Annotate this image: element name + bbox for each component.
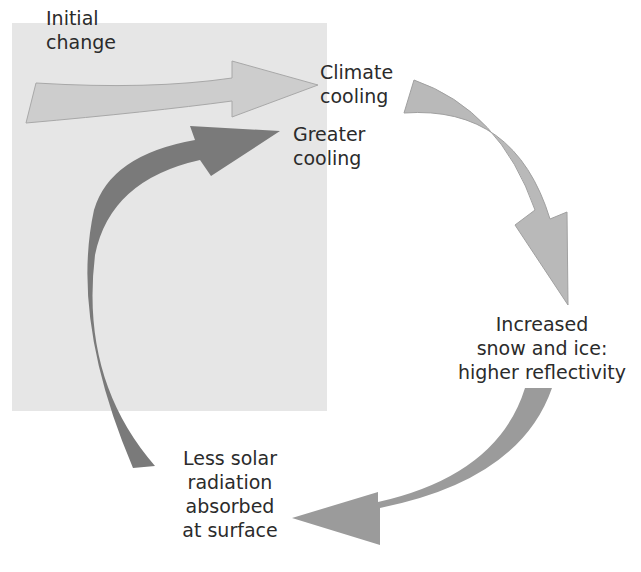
label-initial-change: Initial change	[46, 6, 116, 54]
label-greater-cooling: Greater cooling	[293, 122, 365, 170]
label-less-solar-radiation: Less solar radiation absorbed at surface	[170, 446, 290, 542]
label-climate-cooling: Climate cooling	[320, 60, 393, 108]
label-increased-snow-ice: Increased snow and ice: higher reflectiv…	[432, 312, 641, 384]
feedback-diagram: Initial change Climate cooling Greater c…	[0, 0, 641, 572]
arrow-snow-ice-to-less-radiation	[292, 388, 552, 545]
arrow-climate-cooling-to-snow-ice	[404, 80, 568, 305]
